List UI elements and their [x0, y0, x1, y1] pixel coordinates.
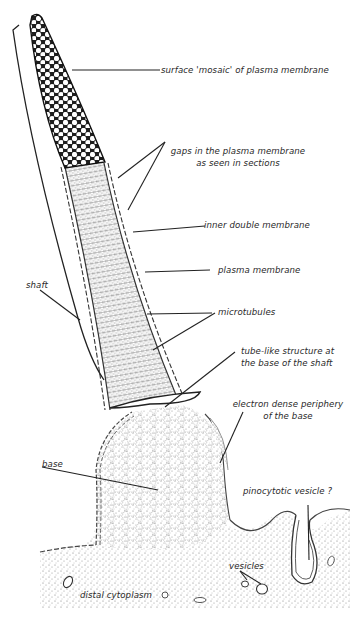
- label-shaft: shaft: [26, 279, 48, 291]
- base-structure: [96, 405, 230, 549]
- label-microtubules: microtubules: [218, 306, 275, 318]
- label-electron-line1: electron dense periphery: [222, 398, 354, 410]
- shaft-structure: [61, 163, 200, 410]
- mosaic-tip: [30, 14, 105, 168]
- label-gaps-line1: gaps in the plasma membrane: [163, 145, 313, 157]
- label-distal-cytoplasm: distal cytoplasm: [80, 589, 152, 601]
- diagram-canvas: [0, 0, 358, 624]
- label-gaps-line2: as seen in sections: [163, 157, 313, 169]
- label-vesicles: vesicles: [229, 560, 264, 572]
- label-inner-double-membrane: inner double membrane: [204, 219, 310, 231]
- label-tube-line1: tube-like structure at: [241, 345, 334, 357]
- label-gaps: gaps in the plasma membrane as seen in s…: [163, 145, 313, 169]
- label-electron-dense: electron dense periphery of the base: [222, 398, 354, 422]
- label-pinocytotic-vesicle: pinocytotic vesicle ?: [243, 485, 332, 497]
- label-base: base: [42, 458, 63, 470]
- label-electron-line2: of the base: [222, 410, 354, 422]
- label-tube-line2: the base of the shaft: [241, 357, 334, 369]
- label-tube-like-structure: tube-like structure at the base of the s…: [241, 345, 334, 369]
- label-plasma-membrane: plasma membrane: [218, 264, 300, 276]
- pinocytotic-vesicle: [292, 515, 318, 584]
- label-surface-mosaic: surface 'mosaic' of plasma membrane: [161, 64, 329, 76]
